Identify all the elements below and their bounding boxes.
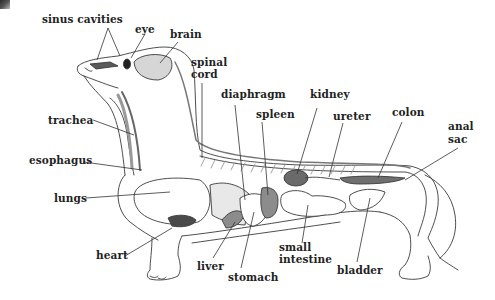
label-anal-sac-line2: sac	[448, 134, 467, 145]
anatomy-diagram: sinus cavities eye brain spinal cord tra…	[0, 0, 495, 300]
dog-illustration	[0, 0, 495, 300]
label-brain: brain	[170, 29, 202, 40]
label-spinal-cord-line2: cord	[191, 69, 218, 80]
tail	[425, 175, 456, 258]
label-stomach: stomach	[228, 272, 278, 283]
label-small-intestine-line2: intestine	[279, 254, 332, 265]
front-paw-toes	[150, 276, 166, 279]
label-heart: heart	[96, 250, 128, 261]
bladder-shape	[349, 189, 385, 210]
label-bladder: bladder	[337, 265, 383, 276]
small-intestine-shape	[281, 191, 346, 217]
kidney-shape	[284, 170, 308, 186]
label-lungs: lungs	[54, 193, 87, 204]
label-anal-sac-line1: anal	[448, 121, 474, 132]
leader-colon	[378, 122, 402, 178]
label-colon: colon	[392, 107, 425, 118]
leader-heart	[125, 228, 172, 256]
brain-shape	[134, 55, 172, 80]
leader-sinus-2	[108, 28, 120, 56]
label-liver: liver	[197, 261, 224, 272]
heart-shape	[168, 215, 196, 227]
leader-kidney	[297, 108, 317, 174]
label-ureter: ureter	[333, 111, 371, 122]
label-kidney: kidney	[310, 89, 350, 100]
belly-line-2	[192, 222, 340, 243]
mouth-line	[85, 68, 92, 71]
leader-anal-sac	[405, 148, 458, 180]
label-sinus-cavities: sinus cavities	[42, 14, 123, 25]
label-trachea: trachea	[48, 115, 93, 126]
leader-eye	[131, 34, 145, 58]
leader-sinus-1	[97, 28, 108, 60]
label-small-intestine-line1: small	[279, 242, 311, 253]
label-eye: eye	[135, 24, 155, 35]
label-spleen: spleen	[256, 109, 295, 120]
ureter-shape	[305, 177, 340, 180]
colon-shape	[340, 176, 405, 184]
leader-ureter	[329, 123, 343, 177]
label-diaphragm: diaphragm	[221, 89, 286, 100]
front-leg	[147, 236, 182, 280]
sinus-cavity-shape	[90, 62, 118, 69]
label-spinal-cord-line1: spinal	[191, 57, 227, 68]
body-outline-top	[78, 47, 458, 270]
snout-outline	[77, 66, 118, 88]
label-esophagus: esophagus	[29, 155, 92, 166]
eye-shape	[124, 59, 131, 69]
spleen-shape	[261, 188, 278, 219]
